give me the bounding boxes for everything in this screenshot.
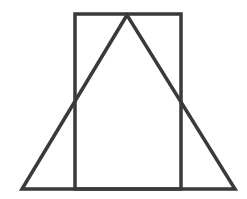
geometry-diagram <box>0 0 247 199</box>
triangle-shape <box>22 15 235 189</box>
rectangle-shape <box>75 14 181 189</box>
